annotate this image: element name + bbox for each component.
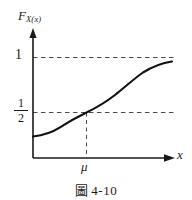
x-axis-title: x [177,148,183,161]
x-tick-label-mu: μ [81,160,88,173]
y-axis-title-subscript: X(x) [26,14,41,24]
y-tick-label-one: 1 [15,48,22,62]
x-axis-arrowhead [164,154,175,162]
cdf-plot [0,0,192,200]
y-axis-title: FX(x) [18,9,41,23]
figure-container: FX(x) 1 1 2 μ x 圖4-10 [0,0,192,200]
y-axis-arrowhead [29,28,36,38]
fraction-denominator: 2 [14,112,28,124]
caption-prefix: 圖 [75,183,89,198]
y-tick-label-half: 1 2 [14,97,28,124]
caption-number: 4-10 [91,183,117,198]
figure-caption: 圖4-10 [0,180,192,199]
y-axis-title-main: F [18,8,26,23]
cdf-curve [33,62,172,137]
fraction-numerator: 1 [14,97,28,109]
